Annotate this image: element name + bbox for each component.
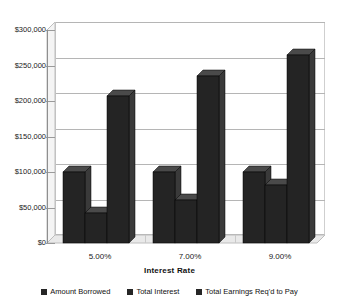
bar-total-earnings-5 xyxy=(107,0,129,308)
bar-total-interest-5 xyxy=(85,0,107,308)
y-tick-label-0: $0 xyxy=(2,239,46,247)
y-tick-label-100000: $100,000 xyxy=(2,168,46,176)
y-tick-label-50000: $50,000 xyxy=(2,204,46,212)
tick-0 xyxy=(46,243,55,244)
bar-total-interest-9 xyxy=(265,0,287,308)
legend-item-total-interest: Total Interest xyxy=(127,288,179,296)
legend-swatch-icon xyxy=(196,289,202,295)
x-tick-label-1: 7.00% xyxy=(145,252,235,261)
bar-total-earnings-9 xyxy=(287,0,309,308)
legend-label: Total Earnings Req'd to Pay xyxy=(205,288,297,296)
y-tick-label-300000: $300,000 xyxy=(2,26,46,34)
legend-label: Total Interest xyxy=(136,288,179,296)
bar-amount-borrowed-9 xyxy=(243,0,265,308)
y-axis-wall-edge xyxy=(55,22,56,235)
legend-label: Amount Borrowed xyxy=(50,288,110,296)
y-tick-label-150000: $150,000 xyxy=(2,133,46,141)
bar-chart: $300,000 $250,000 $200,000 $150,000 $100… xyxy=(0,0,339,308)
bar-amount-borrowed-7 xyxy=(153,0,175,308)
y-axis-labels: $300,000 $250,000 $200,000 $150,000 $100… xyxy=(0,0,46,308)
chart-legend: Amount Borrowed Total Interest Total Ear… xyxy=(0,288,339,296)
bar-amount-borrowed-5 xyxy=(63,0,85,308)
x-tick-label-2: 9.00% xyxy=(235,252,325,261)
bar-total-earnings-7 xyxy=(197,0,219,308)
plot-area xyxy=(0,0,339,308)
bar-total-interest-7 xyxy=(175,0,197,308)
legend-swatch-icon xyxy=(41,289,47,295)
y-tick-label-250000: $250,000 xyxy=(2,62,46,70)
y-tick-label-200000: $200,000 xyxy=(2,97,46,105)
legend-item-total-earnings: Total Earnings Req'd to Pay xyxy=(196,288,297,296)
y-axis-line xyxy=(47,30,48,243)
x-tick-label-0: 5.00% xyxy=(55,252,145,261)
legend-swatch-icon xyxy=(127,289,133,295)
x-axis-title: Interest Rate xyxy=(0,266,339,275)
legend-item-amount-borrowed: Amount Borrowed xyxy=(41,288,110,296)
